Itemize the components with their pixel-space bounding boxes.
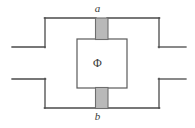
junction-a-label: a bbox=[0, 3, 195, 14]
flux-symbol-label: Φ bbox=[0, 57, 195, 69]
junction-b-barrier bbox=[96, 88, 109, 109]
junction-b-label: b bbox=[0, 111, 195, 122]
circuit-figure: a Φ b bbox=[0, 0, 195, 128]
junction-a-barrier bbox=[96, 18, 109, 40]
